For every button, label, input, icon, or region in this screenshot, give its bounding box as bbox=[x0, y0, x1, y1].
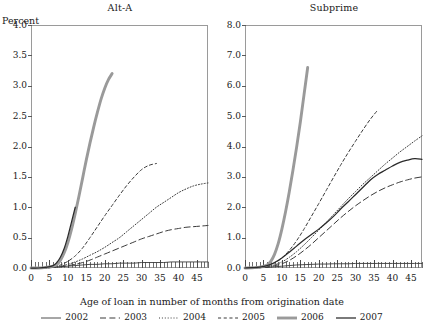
legend-label: 2007 bbox=[360, 313, 383, 322]
legend-label: 2003 bbox=[124, 313, 147, 322]
legend-label: 2006 bbox=[301, 313, 324, 322]
series-line-2005 bbox=[31, 164, 156, 269]
legend-item-2004[interactable]: 2004 bbox=[159, 313, 206, 322]
legend-swatch-2005 bbox=[218, 313, 238, 322]
legend-label: 2005 bbox=[242, 313, 265, 322]
legend-item-2003[interactable]: 2003 bbox=[100, 313, 147, 322]
legend: 200220032004200520062007 bbox=[0, 313, 424, 322]
legend-label: 2004 bbox=[183, 313, 206, 322]
series-line-2003 bbox=[245, 177, 422, 268]
series-line-2007 bbox=[245, 159, 422, 268]
legend-swatch-2007 bbox=[336, 313, 356, 322]
x-axis-label: Age of loan in number of months from ori… bbox=[0, 296, 424, 307]
legend-swatch-2002 bbox=[41, 313, 61, 322]
legend-item-2006[interactable]: 2006 bbox=[277, 313, 324, 322]
legend-swatch-2003 bbox=[100, 313, 120, 322]
legend-item-2002[interactable]: 2002 bbox=[41, 313, 88, 322]
legend-item-2007[interactable]: 2007 bbox=[336, 313, 383, 322]
legend-swatch-2006 bbox=[277, 313, 297, 322]
legend-swatch-2004 bbox=[159, 313, 179, 322]
figure-root: Alt-A Subprime Percent 0.00.51.01.52.02.… bbox=[0, 0, 424, 328]
legend-label: 2002 bbox=[65, 313, 88, 322]
series-lines-layer bbox=[0, 0, 424, 328]
series-line-2004 bbox=[245, 136, 422, 268]
series-line-2006 bbox=[31, 74, 112, 268]
legend-item-2005[interactable]: 2005 bbox=[218, 313, 265, 322]
